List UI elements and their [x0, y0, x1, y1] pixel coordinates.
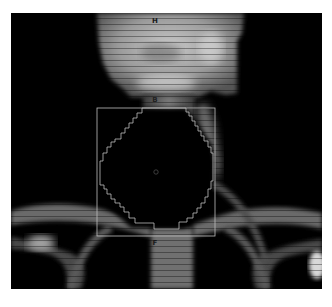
marker-middle: B	[150, 97, 160, 104]
radiograph-image	[11, 13, 322, 289]
marker-top: H	[150, 18, 160, 25]
marker-bottom: F	[150, 240, 160, 247]
image-panel: H B F	[11, 13, 322, 289]
